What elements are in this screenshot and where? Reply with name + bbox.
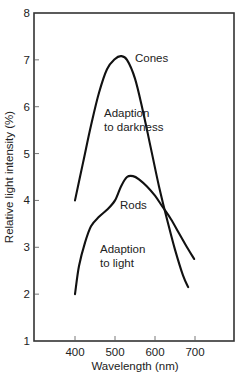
y-tick-label: 3 <box>24 241 30 253</box>
rods-curve <box>75 176 194 294</box>
y-tick-label: 1 <box>24 335 30 347</box>
x-tick-label: 500 <box>105 346 124 358</box>
x-tick-label: 600 <box>145 346 164 358</box>
light-label-line1: Adaption <box>100 243 145 255</box>
y-tick-label: 4 <box>24 194 31 206</box>
y-tick-label: 7 <box>24 54 30 66</box>
darkness-label-line1: Adaption <box>104 107 149 119</box>
y-axis-ticks: 12345678 <box>24 7 39 347</box>
x-axis-ticks: 400500600700 <box>65 336 204 358</box>
y-axis-title: Relative light intensity (%) <box>3 111 15 243</box>
cones-label: Cones <box>135 52 168 64</box>
y-tick-label: 8 <box>24 7 30 19</box>
darkness-label-line2: to darkness <box>104 121 164 133</box>
light-label-line2: to light <box>100 257 135 269</box>
y-tick-label: 6 <box>24 101 30 113</box>
rods-label: Rods <box>120 199 147 211</box>
x-tick-label: 700 <box>185 346 204 358</box>
chart-container: 12345678 400500600700 Cones Adaption to … <box>0 0 243 375</box>
y-tick-label: 2 <box>24 288 30 300</box>
x-tick-label: 400 <box>65 346 84 358</box>
y-tick-label: 5 <box>24 148 30 160</box>
x-axis-title: Wavelength (nm) <box>91 360 178 372</box>
chart-svg: 12345678 400500600700 Cones Adaption to … <box>0 0 243 375</box>
